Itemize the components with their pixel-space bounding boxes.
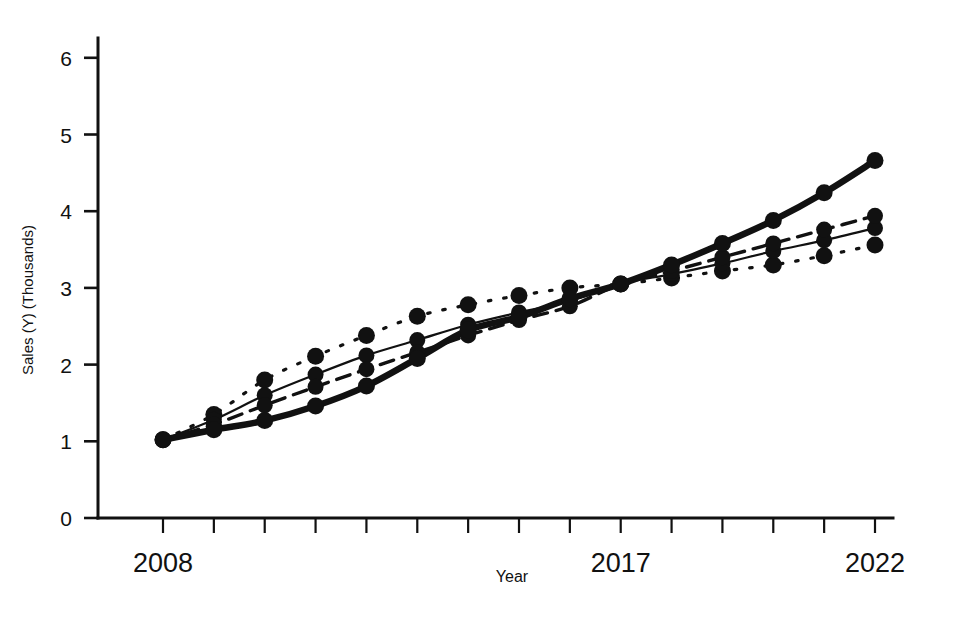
data-point — [155, 431, 172, 448]
y-axis-title: Sales (Y) (Thousands) — [19, 225, 36, 375]
y-tick-label-4: 4 — [60, 200, 72, 223]
x-axis-title: Year — [496, 568, 529, 585]
x-tick-label-2022: 2022 — [845, 548, 905, 578]
data-point — [460, 322, 477, 339]
data-point — [867, 208, 883, 224]
data-point — [409, 350, 426, 367]
data-point — [205, 421, 222, 438]
data-point — [358, 327, 375, 344]
chart-container: 0123456 Sales (Y) (Thousands) 2008201720… — [0, 0, 958, 619]
data-point — [307, 398, 324, 415]
data-point — [816, 222, 832, 238]
data-point — [765, 235, 781, 251]
y-tick-label-5: 5 — [60, 124, 72, 147]
y-tick-label-1: 1 — [60, 430, 72, 453]
data-point — [816, 184, 833, 201]
data-point — [257, 397, 273, 413]
sales-forecast-chart: 0123456 Sales (Y) (Thousands) 2008201720… — [0, 0, 958, 619]
chart-background — [0, 0, 958, 619]
y-tick-label-6: 6 — [60, 47, 72, 70]
data-point — [358, 347, 374, 363]
y-tick-label-3: 3 — [60, 277, 72, 300]
data-point — [663, 256, 680, 273]
data-point — [612, 276, 629, 293]
y-tick-label-0: 0 — [60, 507, 72, 530]
data-point — [409, 308, 426, 325]
data-point — [256, 412, 273, 429]
data-point — [561, 290, 578, 307]
data-point — [307, 348, 324, 365]
data-point — [256, 371, 273, 388]
data-point — [714, 235, 731, 252]
data-point — [308, 379, 324, 395]
y-tick-label-2: 2 — [60, 354, 72, 377]
data-point — [511, 287, 528, 304]
x-tick-label-2008: 2008 — [133, 548, 193, 578]
data-point — [511, 309, 528, 326]
data-point — [867, 152, 884, 169]
data-point — [816, 247, 833, 264]
x-tick-label-2017: 2017 — [591, 548, 651, 578]
data-point — [460, 296, 477, 313]
data-point — [358, 378, 375, 395]
data-point — [358, 361, 374, 377]
data-point — [867, 236, 884, 253]
data-point — [765, 212, 782, 229]
